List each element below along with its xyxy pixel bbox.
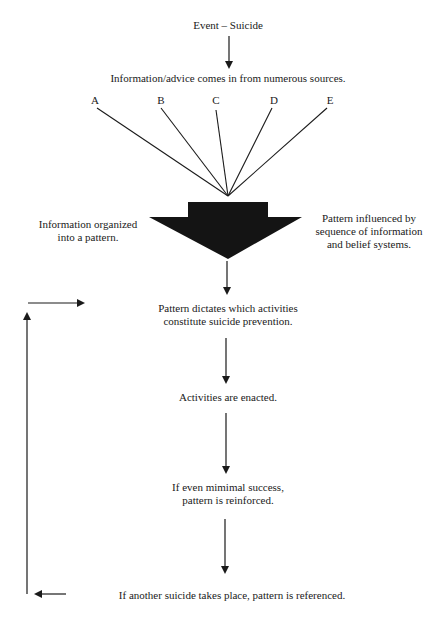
step-pattern-line-2: constitute suicide prevention. <box>0 315 440 328</box>
right-note: Pattern influenced by sequence of inform… <box>299 212 439 251</box>
source-label-d: D <box>266 94 282 106</box>
source-line-a <box>97 108 228 196</box>
right-note-line-3: and belief systems. <box>299 238 439 251</box>
step-pattern-reinforced: If even mimimal success, pattern is rein… <box>0 481 440 507</box>
left-note-line-2: into a pattern. <box>18 231 158 244</box>
step-pattern-referenced: If another suicide takes place, pattern … <box>0 589 440 602</box>
source-label-a: A <box>87 94 103 106</box>
feedback-loop <box>27 303 83 594</box>
right-note-line-1: Pattern influenced by <box>299 212 439 225</box>
step-pattern-line-1: Pattern dictates which activities <box>0 302 440 315</box>
source-label-e: E <box>322 94 338 106</box>
step-reinforced-line-1: If even mimimal success, <box>0 481 440 494</box>
big-funnel-arrow-icon <box>149 202 302 259</box>
source-lines <box>97 108 327 196</box>
sources-description: Information/advice comes in from numerou… <box>0 72 440 85</box>
left-note: Information organized into a pattern. <box>18 218 158 244</box>
source-line-d <box>228 108 272 196</box>
right-note-line-2: sequence of information <box>299 225 439 238</box>
source-label-b: B <box>153 94 169 106</box>
source-label-c: C <box>208 94 224 106</box>
step-activities-enacted: Activities are enacted. <box>0 391 440 404</box>
step-pattern-dictates: Pattern dictates which activities consti… <box>0 302 440 328</box>
left-note-line-1: Information organized <box>18 218 158 231</box>
source-line-e <box>228 108 327 196</box>
step-reinforced-line-2: pattern is reinforced. <box>0 494 440 507</box>
event-title: Event – Suicide <box>0 19 440 32</box>
